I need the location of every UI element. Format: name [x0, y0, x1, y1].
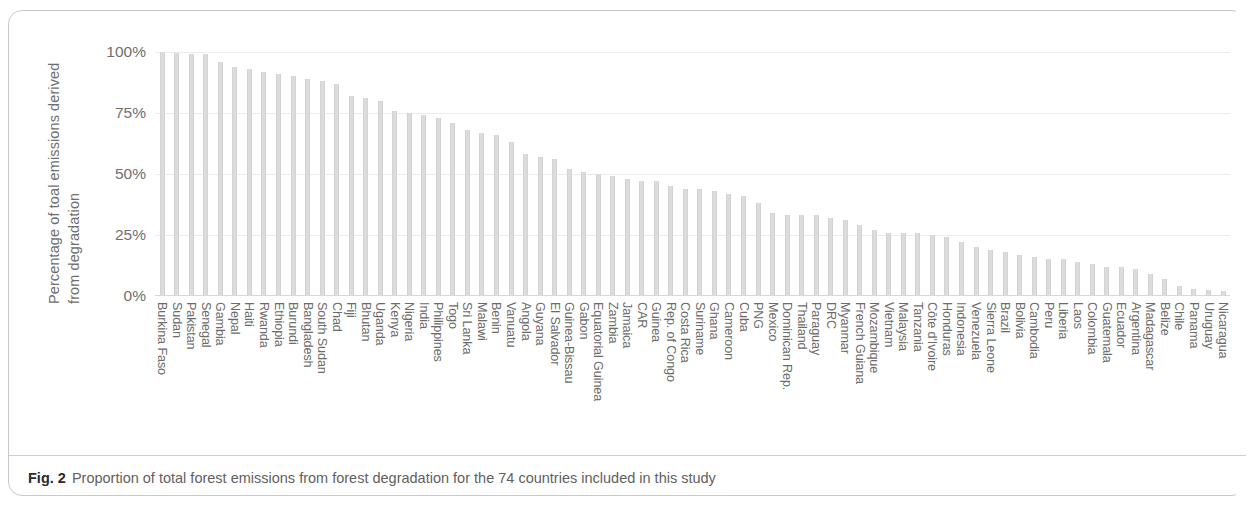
bar: [494, 135, 499, 296]
bar: [247, 69, 252, 296]
x-axis-category-label: Vanuatu: [504, 302, 518, 347]
y-axis-tick-labels: 100%75%50%25%0%: [84, 0, 146, 508]
bar-slot: [765, 52, 780, 296]
x-axis-category-label: Argentina: [1129, 302, 1143, 355]
bar: [1148, 274, 1153, 296]
x-axis-category-label: Burkina Faso: [155, 302, 169, 375]
bar: [741, 196, 746, 296]
bar-slot: [983, 52, 998, 296]
bar: [261, 72, 266, 296]
bar-slot: [1056, 52, 1071, 296]
bar: [944, 237, 949, 296]
bar-slot: [751, 52, 766, 296]
bar-slot: [489, 52, 504, 296]
x-label-slot: Gabon: [576, 300, 591, 450]
bar: [567, 169, 572, 296]
bar-slot: [373, 52, 388, 296]
bar: [436, 118, 441, 296]
bar-slot: [170, 52, 185, 296]
x-label-slot: Angola: [518, 300, 533, 450]
x-axis-category-label: Colombia: [1085, 302, 1099, 354]
bar: [668, 186, 673, 296]
x-axis-category-label: Senegal: [199, 302, 213, 348]
x-label-slot: Mexico: [765, 300, 780, 450]
bar-slot: [1187, 52, 1202, 296]
x-label-slot: Thailand: [794, 300, 809, 450]
x-axis-category-label: Venezuela: [969, 302, 983, 360]
bar: [610, 176, 615, 296]
x-label-slot: Suriname: [693, 300, 708, 450]
x-axis-category-label: Sri Lanka: [460, 302, 474, 354]
bar-slot: [417, 52, 432, 296]
x-axis-category-label: Ghana: [707, 302, 721, 339]
x-axis-category-label: Philippines: [431, 302, 445, 362]
x-label-slot: Kenya: [388, 300, 403, 450]
bar: [1104, 267, 1109, 296]
x-axis-category-label: Cambodia: [1027, 302, 1041, 359]
x-label-slot: Côte d'Ivoire: [925, 300, 940, 450]
bar-slot: [1070, 52, 1085, 296]
x-axis-category-label: Myanmar: [838, 302, 852, 354]
bar-slot: [896, 52, 911, 296]
x-label-slot: Nigeria: [402, 300, 417, 450]
x-axis-category-labels: Burkina FasoSudanPakistanSenegalGambiaNe…: [155, 300, 1230, 450]
bar: [276, 74, 281, 296]
x-axis-category-label: Dominican Rep.: [780, 302, 794, 390]
x-axis-category-label: Cuba: [737, 302, 751, 332]
x-label-slot: India: [417, 300, 432, 450]
bar-slot: [475, 52, 490, 296]
x-axis-category-label: Nepal: [228, 302, 242, 334]
x-axis-category-label: French Guiana: [853, 302, 867, 384]
bar: [1206, 290, 1211, 296]
x-label-slot: CAR: [635, 300, 650, 450]
x-axis-category-label: Zambia: [606, 302, 620, 343]
x-label-slot: Pakistan: [184, 300, 199, 450]
x-axis-category-label: Chile: [1172, 302, 1186, 330]
bar-slot: [199, 52, 214, 296]
bar-slot: [925, 52, 940, 296]
x-label-slot: Ecuador: [1114, 300, 1129, 450]
bar-slot: [344, 52, 359, 296]
bar-slot: [998, 52, 1013, 296]
bar: [392, 111, 397, 296]
x-axis-category-label: Laos: [1071, 302, 1085, 329]
x-axis-category-label: Gabon: [577, 302, 591, 339]
bar: [596, 174, 601, 296]
x-label-slot: Costa Rica: [678, 300, 693, 450]
bar: [465, 130, 470, 296]
x-axis-category-label: Guyana: [533, 302, 547, 346]
bar: [857, 225, 862, 296]
x-label-slot: DRC: [823, 300, 838, 450]
x-axis-category-label: Pakistan: [184, 302, 198, 350]
bar: [654, 181, 659, 296]
bar-chart: Percentage of toal emissions derived fro…: [0, 0, 1254, 508]
x-label-slot: Cuba: [736, 300, 751, 450]
bar-slot: [431, 52, 446, 296]
bar: [770, 213, 775, 296]
y-axis-tick-label: 75%: [84, 104, 146, 122]
bar-slot: [1041, 52, 1056, 296]
bar-slot: [780, 52, 795, 296]
x-label-slot: Guyana: [533, 300, 548, 450]
plot-area: [155, 52, 1230, 296]
bar-series: [155, 52, 1230, 296]
caption-divider: [9, 455, 1246, 456]
bar: [1017, 255, 1022, 296]
x-label-slot: Bangladesh: [300, 300, 315, 450]
bar-slot: [184, 52, 199, 296]
x-label-slot: Gambia: [213, 300, 228, 450]
bar-slot: [402, 52, 417, 296]
bar-slot: [809, 52, 824, 296]
bar: [218, 62, 223, 296]
bar-slot: [1085, 52, 1100, 296]
bar-slot: [533, 52, 548, 296]
x-axis-category-label: Sudan: [170, 302, 184, 338]
bar: [1032, 257, 1037, 296]
x-axis-category-label: Gambia: [213, 302, 227, 346]
x-label-slot: Nepal: [228, 300, 243, 450]
x-label-slot: Vanuatu: [504, 300, 519, 450]
x-label-slot: PNG: [751, 300, 766, 450]
bar-slot: [707, 52, 722, 296]
x-axis-category-label: Brazil: [998, 302, 1012, 333]
bar: [232, 67, 237, 296]
